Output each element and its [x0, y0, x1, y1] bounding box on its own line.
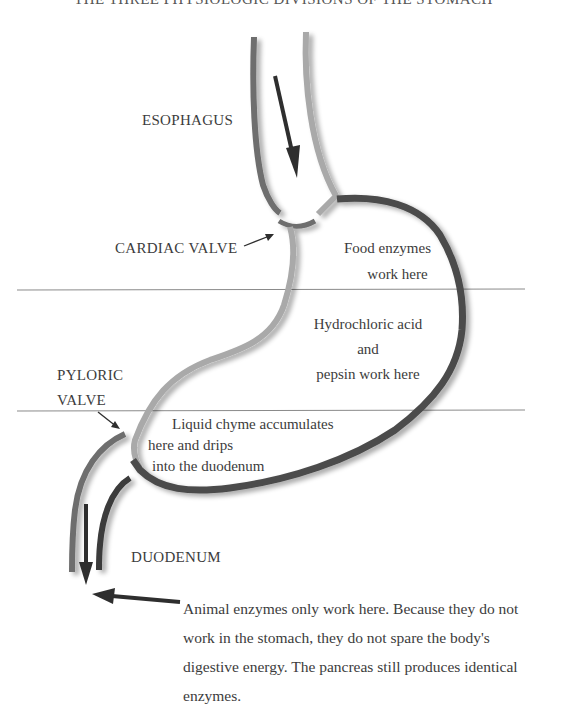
esophagus-flow-arrow: [275, 76, 300, 178]
note-line-4: enzymes.: [183, 681, 563, 708]
upper-divider-line: [17, 289, 525, 290]
zone-lower-line2: here and drips: [148, 438, 233, 453]
zone-upper-line1: Food enzymes: [320, 241, 455, 256]
zone-lower-line3: into the duodenum: [152, 459, 265, 474]
label-pyloric-valve-line1: PYLORIC: [57, 368, 123, 383]
cardiac-valve-lip: [279, 221, 315, 226]
esophagus-left-wall: [253, 37, 280, 213]
cardiac-valve-pointer: [244, 234, 274, 246]
zone-middle-line1: Hydrochloric acid: [293, 317, 443, 332]
lower-divider-line: [17, 410, 525, 411]
label-cardiac-valve: CARDIAC VALVE: [115, 241, 237, 256]
zone-upper-line2: work here: [330, 267, 465, 282]
duodenum-inner-wall: [99, 478, 130, 570]
pyloric-valve-pointer: [98, 412, 120, 429]
label-pyloric-valve-line2: VALVE: [57, 393, 106, 408]
label-duodenum: DUODENUM: [131, 550, 221, 565]
label-esophagus: ESOPHAGUS: [142, 113, 233, 128]
zone-lower-line1: Liquid chyme accumulates: [172, 417, 334, 432]
esophagus-right-wall: [306, 32, 336, 214]
note-line-2: work in the stomach, they do not spare t…: [183, 623, 563, 652]
zone-middle-line2: and: [293, 342, 443, 357]
note-line-1: Animal enzymes only work here. Because t…: [183, 594, 563, 623]
note-line-3: digestive energy. The pancreas still pro…: [183, 652, 563, 681]
note-pointer-arrow: [92, 588, 180, 604]
animal-enzymes-note: Animal enzymes only work here. Because t…: [183, 594, 563, 708]
zone-middle-line3: pepsin work here: [293, 367, 443, 382]
duodenum-flow-arrow: [79, 504, 93, 585]
